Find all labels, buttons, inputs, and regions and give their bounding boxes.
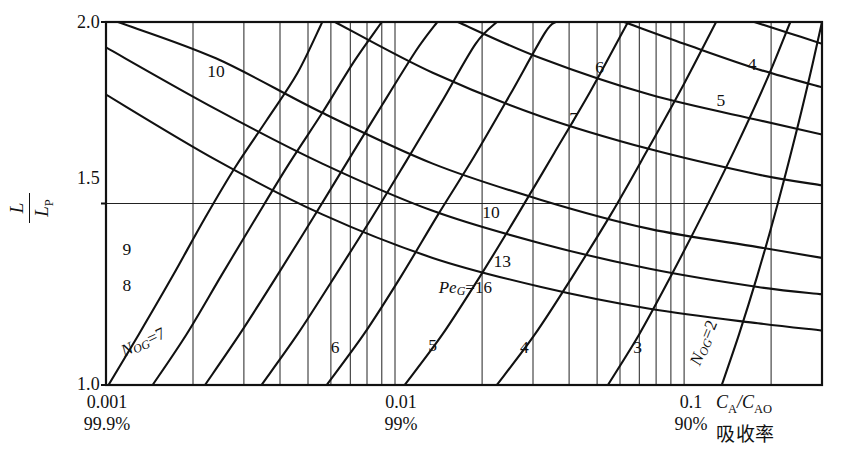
curve-label-pe_g-13: 13 xyxy=(494,251,512,271)
curve-label-pe_g-10: 10 xyxy=(482,202,500,222)
curve-label-pe_g-6: 6 xyxy=(595,57,604,77)
fraction-bar xyxy=(29,193,31,223)
curve-label-n_og-4: 4 xyxy=(520,337,529,357)
curve-label-pe_g-16: PeG=16 xyxy=(438,278,492,298)
curve-label-pe_g-4: 4 xyxy=(748,54,757,74)
curve-label-n_og-2: NOG=2 xyxy=(685,317,722,369)
curve-pe_g-13 xyxy=(106,47,822,294)
y-den-sub: P xyxy=(42,199,56,206)
curve-label-n_og-6: 6 xyxy=(331,337,340,357)
ratio-num-base: C xyxy=(716,392,728,412)
figure-nomograph: 1098NOG=76543NOG=2PeG=1613107654 2.0 1.5… xyxy=(0,0,849,455)
x-decade-0-percent: 99.9% xyxy=(66,414,148,436)
curve-label-n_og-9: 9 xyxy=(122,239,131,259)
x-axis-ratio: CA/CAO xyxy=(716,392,775,417)
x-axis-caption-cn: 吸收率 xyxy=(716,419,775,446)
y-axis-denominator: LP xyxy=(31,194,56,222)
x-axis-caption: CA/CAO 吸收率 xyxy=(716,392,775,446)
x-decade-1-percent: 99% xyxy=(360,414,442,436)
y-axis-numerator: L xyxy=(7,198,28,219)
curve-label-n_og-8: 8 xyxy=(122,275,131,295)
curve-label-pe_g-7: 7 xyxy=(569,108,578,128)
plot-canvas: 1098NOG=76543NOG=2PeG=1613107654 xyxy=(0,0,849,455)
curve-pe_g-5 xyxy=(624,22,822,87)
ratio-den-base: C xyxy=(742,392,754,412)
curve-label-n_og-3: 3 xyxy=(633,337,642,357)
curve-label-n_og-5: 5 xyxy=(428,335,437,355)
x-decade-0: 0.001 99.9% xyxy=(66,392,148,436)
y-den-base: L xyxy=(31,206,52,217)
curve-label-pe_g-5: 5 xyxy=(716,90,725,110)
curve-pe_g-7 xyxy=(335,22,822,185)
x-decade-1: 0.01 99% xyxy=(360,392,442,436)
x-decade-0-value: 0.001 xyxy=(66,392,148,414)
y-tick-2: 2.0 xyxy=(44,12,100,33)
ratio-den-sub: AO xyxy=(754,402,772,416)
x-decade-1-value: 0.01 xyxy=(360,392,442,414)
y-axis-title: L LP xyxy=(7,173,87,243)
ratio-num-sub: A xyxy=(728,402,737,416)
curve-label-n_og-10: 10 xyxy=(207,61,225,81)
